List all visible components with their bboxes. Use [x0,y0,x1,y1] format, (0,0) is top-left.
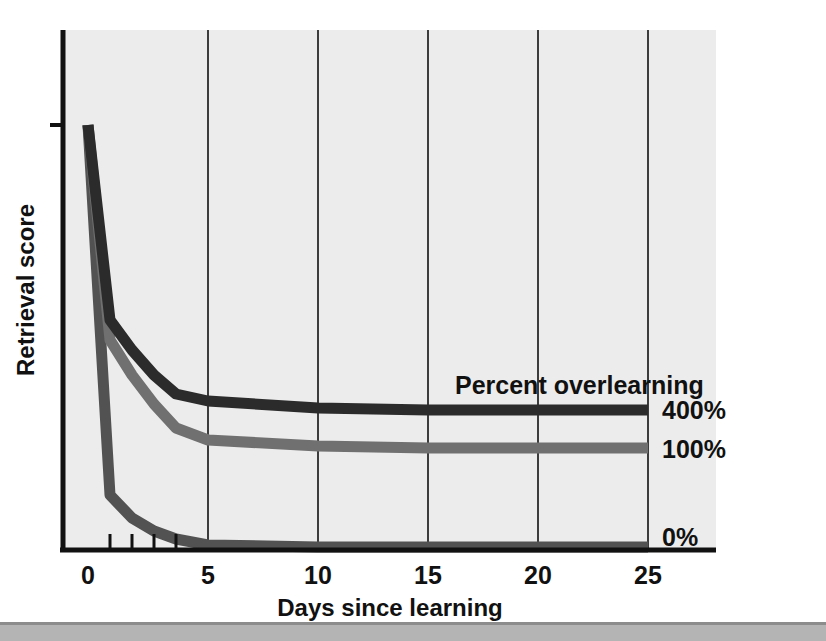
percent-overlearning-annotation: Percent overlearning [455,371,704,399]
series-label-100-percent: 100% [662,435,726,463]
y-axis-title: Retrieval score [12,204,39,376]
x-axis-title: Days since learning [277,594,502,621]
x-tick-label-0: 0 [81,561,95,589]
series-label-400-percent: 400% [662,396,726,424]
bottom-decorative-band [0,622,826,641]
series-label-0-percent: 0% [662,523,698,551]
x-tick-label-25: 25 [634,561,662,589]
x-tick-label-5: 5 [201,561,215,589]
x-tick-label-10: 10 [304,561,332,589]
x-tick-label-20: 20 [524,561,552,589]
plot-area-background [63,30,716,550]
chart-page: 0 5 10 15 20 25 Days since learning Retr… [0,0,826,641]
x-tick-label-15: 15 [414,561,442,589]
chart-figure: 0 5 10 15 20 25 Days since learning Retr… [0,0,826,622]
retrieval-score-line-chart: 0 5 10 15 20 25 Days since learning Retr… [0,0,826,622]
band-fill [0,625,826,641]
x-axis-tick-labels: 0 5 10 15 20 25 [81,561,662,589]
